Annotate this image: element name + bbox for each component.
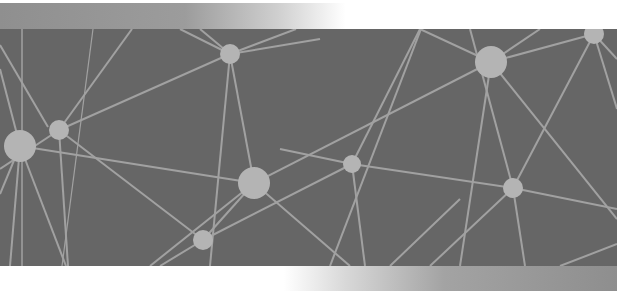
bottom-gradient-bar (0, 266, 617, 291)
node-circle (193, 230, 213, 250)
node-circle (4, 130, 36, 162)
top-gradient-bar (0, 3, 617, 29)
node-circle (475, 46, 507, 78)
node-circle (220, 44, 240, 64)
node-circle (238, 167, 270, 199)
network-nodes (4, 29, 604, 250)
network-illustration (0, 29, 617, 266)
node-circle (49, 120, 69, 140)
node-circle (343, 155, 361, 173)
network-graph-svg (0, 29, 617, 266)
node-circle (503, 178, 523, 198)
network-edges (0, 29, 617, 266)
